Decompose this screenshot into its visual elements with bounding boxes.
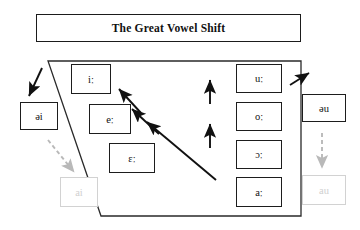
arrow-raising-diagonal-3 xyxy=(147,122,216,180)
vowel-box-ai-modern: ai xyxy=(60,177,98,207)
vowel-symbol: eː xyxy=(106,114,114,125)
diagram-title-box: The Great Vowel Shift xyxy=(36,14,301,42)
vowel-symbol: au xyxy=(319,185,329,196)
page-title: The Great Vowel Shift xyxy=(112,22,226,34)
vowel-box-au-modern: au xyxy=(302,175,346,205)
vowel-symbol: ɔː xyxy=(255,149,263,160)
arrow-raising-diagonal-2 xyxy=(132,109,159,134)
vowel-box-epsilon-long: ɛː xyxy=(109,143,155,173)
vowel-box-open-o-long: ɔː xyxy=(236,140,282,169)
vowel-symbol: əu xyxy=(319,103,329,114)
arrow-front-diphthongization xyxy=(29,68,42,96)
diagram-canvas: The Great Vowel Shift əi xyxy=(0,0,360,230)
vowel-symbol: oː xyxy=(255,111,263,122)
vowel-symbol: iː xyxy=(88,74,94,85)
vowel-symbol: uː xyxy=(255,73,263,84)
vowel-symbol: ɛː xyxy=(128,153,135,164)
vowel-box-e-long: eː xyxy=(89,104,131,134)
arrow-front-modern-dashed xyxy=(48,140,74,172)
vowel-symbol: əi xyxy=(35,111,43,122)
vowel-box-u-long: uː xyxy=(236,64,282,93)
vowel-symbol: ai xyxy=(75,187,83,198)
vowel-box-a-long: aː xyxy=(236,177,282,207)
vowel-box-i-long: iː xyxy=(71,64,111,94)
vowel-symbol: aː xyxy=(255,187,263,198)
vowel-box-o-long: oː xyxy=(236,102,282,131)
vowel-box-schwa-i: əi xyxy=(20,102,58,130)
arrow-back-diphthongization xyxy=(290,73,309,85)
vowel-box-schwa-u: əu xyxy=(302,94,346,122)
